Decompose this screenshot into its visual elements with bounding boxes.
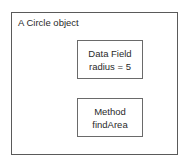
data-field-heading: Data Field (88, 47, 131, 60)
method-box: Method findArea (77, 98, 143, 137)
data-field-value: radius = 5 (89, 60, 131, 73)
object-title: A Circle object (18, 17, 79, 29)
data-field-box: Data Field radius = 5 (77, 40, 143, 79)
method-name: findArea (92, 118, 127, 131)
method-heading: Method (94, 105, 126, 118)
